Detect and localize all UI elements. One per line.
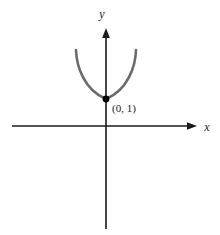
y-axis-label: y	[98, 7, 105, 21]
x-axis-label: x	[203, 120, 210, 134]
vertex-point-marker	[103, 96, 110, 103]
coordinate-plane-graphic: y x (0, 1)	[0, 0, 220, 235]
x-axis-arrowhead	[187, 122, 197, 130]
vertex-point-label: (0, 1)	[112, 102, 136, 115]
parabola-figure: y x (0, 1)	[0, 0, 220, 235]
y-axis-arrowhead	[102, 28, 110, 38]
